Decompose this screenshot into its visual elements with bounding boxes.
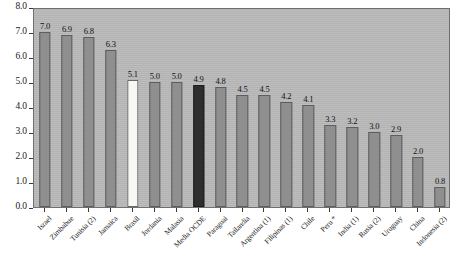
y-axis-tick-label: 6.0 xyxy=(15,51,27,61)
bar[interactable] xyxy=(193,85,204,208)
bar-series: 7.06.96.86.35.15.05.04.94.84.54.54.24.13… xyxy=(34,9,449,207)
x-axis-tick-label: Rusia (2) xyxy=(357,214,383,240)
bar[interactable] xyxy=(368,132,379,207)
x-axis-tick-mark xyxy=(198,208,199,212)
x-axis-tick-mark xyxy=(329,208,330,212)
x-axis-tick-mark xyxy=(220,208,221,212)
x-axis-tick-mark xyxy=(285,208,286,212)
bar-group: 3.3 xyxy=(319,9,341,207)
bar-value-label: 2.9 xyxy=(391,124,401,134)
bar-group: 5.0 xyxy=(166,9,188,207)
bar[interactable] xyxy=(412,157,423,207)
bar-value-label: 6.8 xyxy=(84,26,94,36)
x-axis-tick-mark xyxy=(307,208,308,212)
bar-value-label: 4.2 xyxy=(281,91,291,101)
bar[interactable] xyxy=(215,87,226,207)
bar-group: 6.9 xyxy=(56,9,78,207)
x-axis-tick-mark xyxy=(351,208,352,212)
x-axis-tick-mark xyxy=(373,208,374,212)
x-axis-tick-label: Uruguay xyxy=(380,214,405,239)
bar-group: 2.0 xyxy=(407,9,429,207)
x-axis-tick-label: Paraguai xyxy=(204,214,229,239)
bar-value-label: 5.0 xyxy=(150,71,160,81)
bar-value-label: 2.0 xyxy=(413,146,423,156)
x-axis-tick-mark xyxy=(242,208,243,212)
x-axis-tick-label: Israel xyxy=(35,214,53,232)
x-axis-tick-mark xyxy=(66,208,67,212)
x-axis-tick-mark xyxy=(154,208,155,212)
x-axis-tick-mark xyxy=(395,208,396,212)
bar-group: 2.9 xyxy=(385,9,407,207)
bar[interactable] xyxy=(149,82,160,207)
bar-value-label: 4.5 xyxy=(237,84,247,94)
x-axis-tick-label: Jamaica xyxy=(96,214,119,237)
bar-group: 4.5 xyxy=(232,9,254,207)
x-axis: IsraelZimbabueTunisia (2)JamaicaBrasilJo… xyxy=(33,208,450,260)
bar-group: 6.3 xyxy=(100,9,122,207)
bar[interactable] xyxy=(105,50,116,208)
bar-value-label: 4.1 xyxy=(303,94,313,104)
bar-chart: 0.01.02.03.04.05.06.07.08.0 7.06.96.86.3… xyxy=(0,0,460,260)
bar[interactable] xyxy=(303,105,314,208)
bar-value-label: 4.9 xyxy=(194,74,204,84)
bar-group: 0.8 xyxy=(429,9,450,207)
bar[interactable] xyxy=(61,35,72,208)
bar-group: 4.5 xyxy=(253,9,275,207)
y-axis-tick-label: 3.0 xyxy=(15,126,27,136)
bar[interactable] xyxy=(434,187,445,207)
y-axis-tick-label: 7.0 xyxy=(15,26,27,36)
bar[interactable] xyxy=(347,127,358,207)
y-axis-tick-label: 2.0 xyxy=(15,151,27,161)
bar-group: 7.0 xyxy=(34,9,56,207)
bar-group: 4.9 xyxy=(188,9,210,207)
bar-value-label: 6.3 xyxy=(106,39,116,49)
x-axis-tick-label: Brasil xyxy=(122,214,141,233)
bar-value-label: 6.9 xyxy=(62,24,72,34)
bar[interactable] xyxy=(39,32,50,207)
y-axis: 0.01.02.03.04.05.06.07.08.0 xyxy=(0,8,33,208)
y-axis-tick-label: 0.0 xyxy=(15,201,27,211)
bar-group: 6.8 xyxy=(78,9,100,207)
x-axis-tick-mark xyxy=(110,208,111,212)
bar[interactable] xyxy=(171,82,182,207)
x-axis-tick-label: Jordania xyxy=(139,214,163,238)
bar-group: 4.8 xyxy=(210,9,232,207)
bar[interactable] xyxy=(390,135,401,208)
bar-value-label: 3.2 xyxy=(347,116,357,126)
bar-value-label: 4.5 xyxy=(259,84,269,94)
bar-group: 3.2 xyxy=(341,9,363,207)
bar-group: 5.1 xyxy=(122,9,144,207)
bar-value-label: 7.0 xyxy=(40,21,50,31)
bar-value-label: 0.8 xyxy=(435,176,445,186)
bar[interactable] xyxy=(281,102,292,207)
y-axis-tick-label: 5.0 xyxy=(15,76,27,86)
bar[interactable] xyxy=(237,95,248,208)
bar-group: 4.2 xyxy=(275,9,297,207)
bar-value-label: 5.1 xyxy=(128,69,138,79)
bar-group: 3.0 xyxy=(363,9,385,207)
x-axis-tick-label: China xyxy=(408,214,427,233)
x-axis-tick-mark xyxy=(263,208,264,212)
bar[interactable] xyxy=(83,37,94,207)
x-axis-tick-mark xyxy=(439,208,440,212)
bar[interactable] xyxy=(325,125,336,208)
y-axis-tick-label: 1.0 xyxy=(15,176,27,186)
x-axis-tick-label: Chile xyxy=(299,214,317,232)
plot-area: 7.06.96.86.35.15.05.04.94.84.54.54.24.13… xyxy=(33,8,450,208)
y-axis-tick-label: 8.0 xyxy=(15,1,27,11)
bar[interactable] xyxy=(127,80,138,208)
x-axis-tick-mark xyxy=(176,208,177,212)
bar-group: 5.0 xyxy=(144,9,166,207)
bar[interactable] xyxy=(259,95,270,208)
y-axis-tick-label: 4.0 xyxy=(15,101,27,111)
bar-value-label: 5.0 xyxy=(172,71,182,81)
x-axis-tick-mark xyxy=(417,208,418,212)
bar-value-label: 4.8 xyxy=(216,76,226,86)
x-axis-tick-mark xyxy=(88,208,89,212)
bar-value-label: 3.3 xyxy=(325,114,335,124)
x-axis-tick-mark xyxy=(132,208,133,212)
bar-value-label: 3.0 xyxy=(369,121,379,131)
bar-group: 4.1 xyxy=(297,9,319,207)
x-axis-tick-label: India (1) xyxy=(336,214,360,238)
x-axis-tick-mark xyxy=(44,208,45,212)
